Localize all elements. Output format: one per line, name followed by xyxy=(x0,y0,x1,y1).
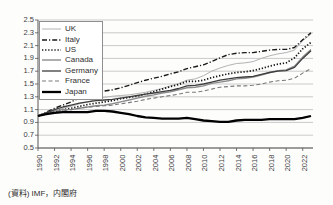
legend-line-sample xyxy=(42,36,61,44)
y-tick-label: 1.7 xyxy=(12,67,34,75)
y-tick-label: 1.3 xyxy=(12,93,34,101)
y-tick-label: 1.1 xyxy=(12,106,34,114)
x-tick-label: 2016 xyxy=(250,155,259,172)
x-tick-label: 2006 xyxy=(167,155,176,172)
y-tick-label: 0.9 xyxy=(12,118,34,126)
y-tick-label: 0.5 xyxy=(12,144,34,152)
legend-label: France xyxy=(65,76,90,86)
legend-item-canada: Canada xyxy=(42,55,99,65)
x-tick-label: 2008 xyxy=(183,155,192,172)
y-tick-label: 1.5 xyxy=(12,80,34,88)
legend-line-sample xyxy=(42,88,61,96)
x-tick-label: 1996 xyxy=(84,155,93,172)
x-tick-label: 2020 xyxy=(283,155,292,172)
legend-item-italy: Italy xyxy=(42,34,99,44)
x-tick-label: 2018 xyxy=(266,155,275,172)
x-tick-label: 1994 xyxy=(68,155,77,172)
x-tick-label: 2010 xyxy=(200,155,209,172)
x-tick-label: 2000 xyxy=(117,155,126,172)
legend-label: Germany xyxy=(65,66,98,76)
x-tick-label: 1990 xyxy=(35,155,44,172)
legend-item-japan: Japan xyxy=(42,86,99,96)
legend-label: Italy xyxy=(65,35,80,45)
series-line-japan xyxy=(38,111,311,122)
source-note: (資料) IMF，内閣府 xyxy=(8,187,77,198)
x-tick-label: 1998 xyxy=(101,155,110,172)
legend-line-sample xyxy=(42,46,61,54)
y-tick-label: 2.3 xyxy=(12,29,34,37)
legend-item-france: France xyxy=(42,76,99,86)
legend-line-sample xyxy=(42,25,61,33)
y-tick-label: 1.9 xyxy=(12,54,34,62)
legend-item-germany: Germany xyxy=(42,66,99,76)
chart-legend: UKItalyUSCanadaGermanyFranceJapan xyxy=(39,21,103,100)
x-tick-label: 1992 xyxy=(51,155,60,172)
legend-item-uk: UK xyxy=(42,24,99,34)
legend-label: Canada xyxy=(65,55,93,65)
x-tick-label: 2012 xyxy=(217,155,226,172)
chart-figure: 0.50.70.91.11.31.51.71.92.12.32.5 199019… xyxy=(0,0,333,205)
legend-label: US xyxy=(65,45,76,55)
x-tick-label: 2014 xyxy=(233,155,242,172)
legend-label: Japan xyxy=(65,87,87,97)
legend-item-us: US xyxy=(42,45,99,55)
y-tick-label: 2.5 xyxy=(12,16,34,24)
x-tick-label: 2002 xyxy=(134,155,143,172)
y-tick-label: 2.1 xyxy=(12,42,34,50)
legend-line-sample xyxy=(42,56,61,64)
legend-label: UK xyxy=(65,24,76,34)
x-tick-label: 2022 xyxy=(299,155,308,172)
legend-line-sample xyxy=(42,77,61,85)
y-tick-label: 0.7 xyxy=(12,131,34,139)
x-tick-label: 2004 xyxy=(150,155,159,172)
legend-line-sample xyxy=(42,67,61,75)
